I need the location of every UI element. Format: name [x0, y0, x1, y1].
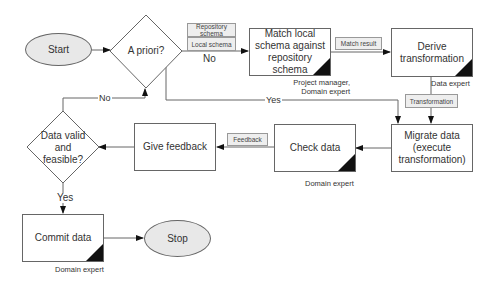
start-label: Start: [48, 44, 69, 56]
corner-marker-icon: [455, 59, 472, 76]
data-valid-node[interactable]: Data valid and feasible?: [33, 129, 93, 167]
stop-label: Stop: [167, 233, 188, 245]
derive-transformation-node[interactable]: Derive transformation: [391, 28, 473, 77]
commit-data-node[interactable]: Commit data: [22, 214, 104, 262]
transformation-artifact: Transformation: [405, 94, 458, 108]
repository-schema-artifact: Repository schema: [187, 23, 236, 37]
commit-label: Commit data: [35, 232, 92, 244]
feedback-artifact: Feedback: [227, 133, 268, 146]
a-priori-node[interactable]: A priori?: [112, 40, 180, 62]
derive-role: Data expert: [431, 79, 470, 88]
a-priori-yes-label: Yes: [265, 95, 282, 105]
a-priori-label: A priori?: [128, 45, 165, 57]
stop-node[interactable]: Stop: [144, 220, 211, 257]
give-feedback-node[interactable]: Give feedback: [134, 123, 216, 171]
migrate-data-node[interactable]: Migrate data (execute transformation): [391, 124, 473, 172]
a-priori-no-label: No: [202, 54, 217, 64]
corner-marker-icon: [338, 154, 355, 171]
check-label: Check data: [290, 142, 341, 154]
migrate-label: Migrate data (execute transformation): [398, 130, 466, 166]
give-feedback-label: Give feedback: [143, 141, 207, 153]
valid-yes-label: Yes: [56, 193, 74, 203]
match-schema-node[interactable]: Match local schema against repository sc…: [249, 28, 331, 76]
match-result-artifact: Match result: [335, 37, 382, 50]
valid-no-label: No: [98, 93, 112, 103]
check-data-node[interactable]: Check data: [274, 124, 356, 172]
start-node[interactable]: Start: [25, 33, 92, 66]
local-schema-artifact: Local schema: [187, 37, 236, 51]
check-role: Domain expert: [305, 179, 354, 188]
data-valid-label: Data valid and feasible?: [40, 130, 86, 166]
match-role: Project manager, Domain expert: [270, 78, 350, 96]
corner-marker-icon: [313, 58, 330, 75]
corner-marker-icon: [86, 244, 103, 261]
commit-role: Domain expert: [55, 265, 104, 274]
